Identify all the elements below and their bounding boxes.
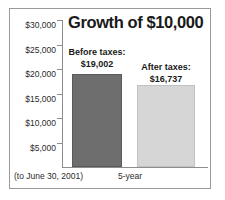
chart-title: Growth of $10,000 [68,13,206,32]
y-axis-tick-text: $5,000 [30,143,56,153]
y-axis-tick-label: $5,000 [8,137,56,155]
y-axis-tick-mark [57,20,63,21]
chart-footnote: (to June 30, 2001) [14,171,83,181]
y-axis-tick-label: $30,000 [8,14,56,32]
y-axis-tick-mark [57,45,63,46]
y-axis-tick-label: $15,000 [8,88,56,106]
y-axis-tick-text: $20,000 [25,69,56,79]
y-axis-tick-text: $25,000 [25,45,56,55]
y-axis-tick-text: $10,000 [25,118,56,128]
bar-label-before-taxes: Before taxes: $19,002 [59,47,135,70]
y-axis-tick-label: $10,000 [8,112,56,130]
bar-label-before-taxes-value: $19,002 [59,59,135,71]
bar-after-taxes [137,85,195,167]
y-axis-tick-mark [57,143,63,144]
x-axis-label: 5-year [100,171,160,181]
chart-figure: Growth of $10,000 $30,000$25,000$20,000$… [0,0,225,200]
bar-label-after-taxes-title: After taxes: [128,62,204,74]
y-axis-tick-label: $25,000 [8,39,56,57]
bar-before-taxes [72,74,122,167]
bar-label-after-taxes-value: $16,737 [128,74,204,86]
y-axis-tick-text: $30,000 [25,20,56,30]
x-axis-line [62,167,208,168]
y-axis-tick-mark [57,118,63,119]
y-axis-tick-text: $15,000 [25,94,56,104]
y-axis-tick-mark [57,94,63,95]
bar-label-before-taxes-title: Before taxes: [59,47,135,59]
bar-label-after-taxes: After taxes: $16,737 [128,62,204,85]
y-axis-tick-label: $20,000 [8,63,56,81]
